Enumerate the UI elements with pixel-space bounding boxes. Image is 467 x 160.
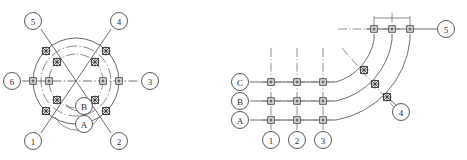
top-dimension — [374, 16, 410, 26]
bubble-axis-6[interactable]: 6 — [4, 73, 21, 90]
orthogonal-panel: t — [232, 11, 455, 149]
bubble-axis-2-label: 2 — [117, 137, 122, 147]
bubble-col-3[interactable]: 3 — [315, 132, 332, 149]
bubble-corner-4-label: 4 — [399, 108, 404, 118]
marker-arc-c — [359, 65, 368, 74]
bubble-col-2[interactable]: 2 — [289, 132, 306, 149]
radial-panel: 1 2 3 4 5 — [4, 13, 159, 150]
marker-axis2-outer — [101, 106, 110, 115]
transition-arc-c — [336, 34, 374, 82]
marker-a2 — [294, 117, 300, 123]
arc-cross-markers — [359, 65, 391, 101]
marker-top-col-c — [407, 26, 413, 32]
bubble-axis-5-label: 5 — [31, 17, 36, 27]
marker-c1 — [268, 79, 274, 85]
bubble-row-c[interactable]: C — [232, 74, 249, 91]
bubble-axis-3[interactable]: 3 — [142, 73, 159, 90]
bubble-axis-4-label: 4 — [117, 17, 122, 27]
marker-axis1-outer — [41, 106, 50, 115]
bubble-row-b[interactable]: B — [232, 93, 249, 110]
bubble-ring-b[interactable]: B — [76, 98, 93, 115]
dimension-label: t — [391, 11, 393, 17]
row-bubbles: C B A — [232, 74, 249, 129]
marker-b2 — [294, 98, 300, 104]
marker-axis3-outer — [116, 78, 122, 84]
bubble-row-a[interactable]: A — [232, 112, 249, 129]
marker-b1 — [268, 98, 274, 104]
marker-axis3-inner — [100, 78, 106, 84]
bubble-ring-b-label: B — [81, 102, 87, 112]
radial-ring-bubbles: A B — [76, 98, 93, 133]
bubble-top-5[interactable]: 5 — [438, 21, 455, 38]
marker-a1 — [268, 117, 274, 123]
top-axis-markers — [371, 26, 413, 32]
marker-c2 — [294, 79, 300, 85]
bubble-axis-4[interactable]: 4 — [111, 13, 128, 30]
bubble-row-c-label: C — [237, 78, 243, 88]
marker-axis6-outer — [30, 78, 36, 84]
bubble-col-1-label: 1 — [269, 136, 274, 146]
bubble-axis-3-label: 3 — [148, 77, 153, 87]
bubble-row-a-label: A — [237, 116, 244, 126]
bubble-col-3-label: 3 — [321, 136, 326, 146]
bubble-axis-1-label: 1 — [31, 137, 36, 147]
column-bubbles: 1 2 3 — [263, 132, 332, 149]
bubble-axis-1[interactable]: 1 — [25, 133, 42, 150]
marker-top-col-a — [371, 26, 377, 32]
diagonal-reference-line — [342, 48, 399, 113]
bubble-axis-2[interactable]: 2 — [111, 133, 128, 150]
bubble-col-1[interactable]: 1 — [263, 132, 280, 149]
bubble-corner-4[interactable]: 4 — [393, 104, 410, 121]
marker-a3 — [320, 117, 326, 123]
marker-axis4-outer — [101, 46, 110, 55]
marker-arc-b — [370, 79, 379, 88]
bubble-top-5-label: 5 — [444, 25, 449, 35]
bubble-ring-a-label: A — [81, 120, 88, 130]
bubble-ring-a[interactable]: A — [76, 116, 93, 133]
marker-axis6-inner — [46, 78, 52, 84]
technical-drawing-figure: 1 2 3 4 5 — [0, 0, 467, 160]
marker-top-col-b — [389, 26, 395, 32]
diagram-canvas: 1 2 3 4 5 — [0, 0, 467, 160]
marker-axis1-inner — [52, 95, 61, 104]
marker-c3 — [320, 79, 326, 85]
bubble-axis-5[interactable]: 5 — [25, 13, 42, 30]
marker-axis5-outer — [41, 46, 50, 55]
marker-axis5-inner — [52, 57, 61, 66]
bubble-row-b-label: B — [237, 97, 243, 107]
bubble-col-2-label: 2 — [295, 136, 300, 146]
marker-axis4-inner — [90, 57, 99, 66]
marker-b3 — [320, 98, 326, 104]
bubble-axis-6-label: 6 — [10, 77, 15, 87]
